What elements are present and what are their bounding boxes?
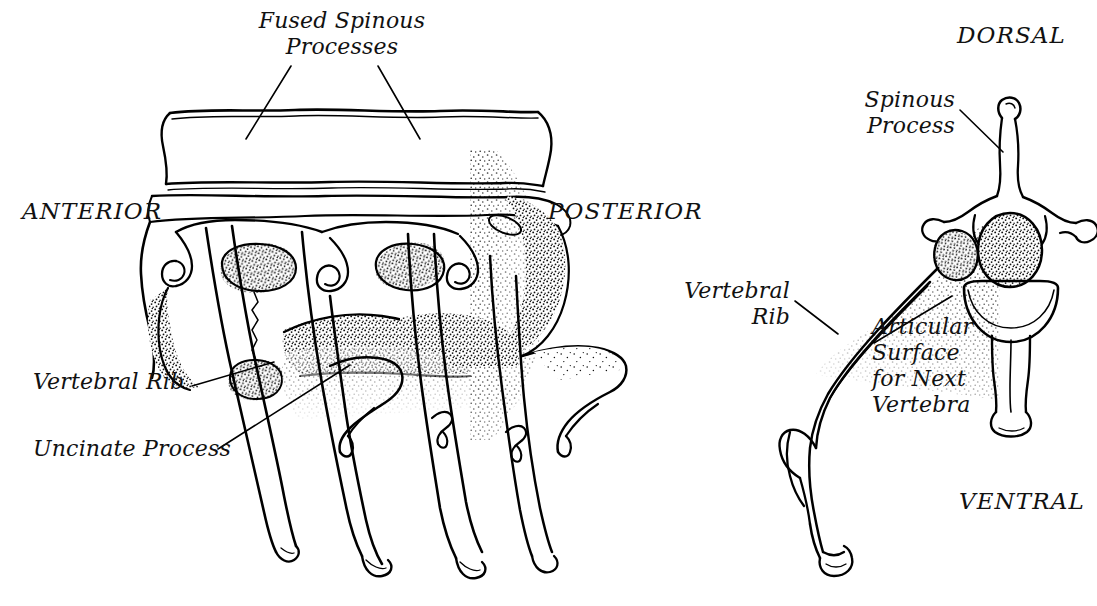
label-spinous-process: Spinous Process [835,87,955,139]
label-uncinate-process: Uncinate Process [33,436,231,462]
label-ventral: VENTRAL [959,488,1085,515]
label-posterior: POSTERIOR [548,198,703,225]
leader-fused-spinous-right [378,66,420,139]
figure-canvas: Fused Spinous Processes ANTERIOR POSTERI… [0,0,1097,606]
leader-vertebral-rib-right [795,301,838,334]
leader-spinous-process [960,110,1003,152]
label-vertebral-rib-right: Vertebral Rib [665,278,790,330]
wing-stipple [534,346,620,380]
spinous-process [997,98,1023,197]
left-panel-group [141,66,627,578]
label-vertebral-rib-left: Vertebral Rib [33,369,184,395]
leader-fused-spinous-left [246,66,291,139]
label-fused-spinous-processes: Fused Spinous Processes [242,8,442,60]
neural-canal [978,213,1042,287]
label-anterior: ANTERIOR [22,198,162,225]
label-articular-surface: Articular Surface for Next Vertebra [872,314,1012,418]
label-dorsal: DORSAL [957,22,1066,49]
